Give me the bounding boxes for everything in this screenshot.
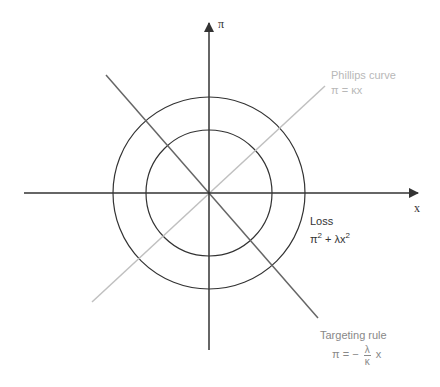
loss-title: Loss xyxy=(310,216,333,227)
y-axis-label: π xyxy=(218,18,224,30)
x-axis-label: x xyxy=(414,202,420,214)
loss-eq-mid: + λx xyxy=(322,233,346,245)
tr-fraction: λ κ xyxy=(364,344,371,367)
loss-equation: π2 + λx2 xyxy=(310,232,350,245)
targeting-rule-equation: π = − λ κ x xyxy=(332,344,381,367)
targeting-rule-title: Targeting rule xyxy=(320,330,387,341)
targeting-rule-line xyxy=(106,75,318,318)
tr-eq-lhs: π = − xyxy=(332,348,359,360)
tr-eq-rhs: x xyxy=(376,348,382,360)
tr-frac-den: κ xyxy=(364,356,371,367)
tr-frac-num: λ xyxy=(364,344,371,356)
loss-eq-square-2: 2 xyxy=(346,231,350,240)
phillips-curve-title: Phillips curve xyxy=(331,70,396,81)
loss-eq-pi: π xyxy=(310,233,318,245)
phillips-curve-equation: π = κx xyxy=(331,85,362,96)
